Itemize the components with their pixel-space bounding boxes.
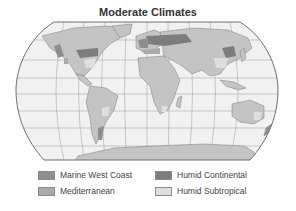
map-title: Moderate Climates [0,6,296,18]
swatch-humid-subtropical [155,187,172,196]
legend-item-humid-subtropical: Humid Subtropical [155,186,246,196]
legend-item-humid-continental: Humid Continental [155,170,247,180]
legend-label: Marine West Coast [60,170,132,180]
swatch-mediterranean [38,187,55,196]
swatch-marine-west-coast [38,171,55,180]
swatch-humid-continental [155,171,172,180]
legend-label: Humid Subtropical [177,186,246,196]
legend-label: Mediterranean [60,186,115,196]
legend-label: Humid Continental [177,170,247,180]
world-climate-map [14,18,280,163]
legend-item-marine-west-coast: Marine West Coast [38,170,132,180]
map-body [14,18,280,163]
legend-item-mediterranean: Mediterranean [38,186,115,196]
